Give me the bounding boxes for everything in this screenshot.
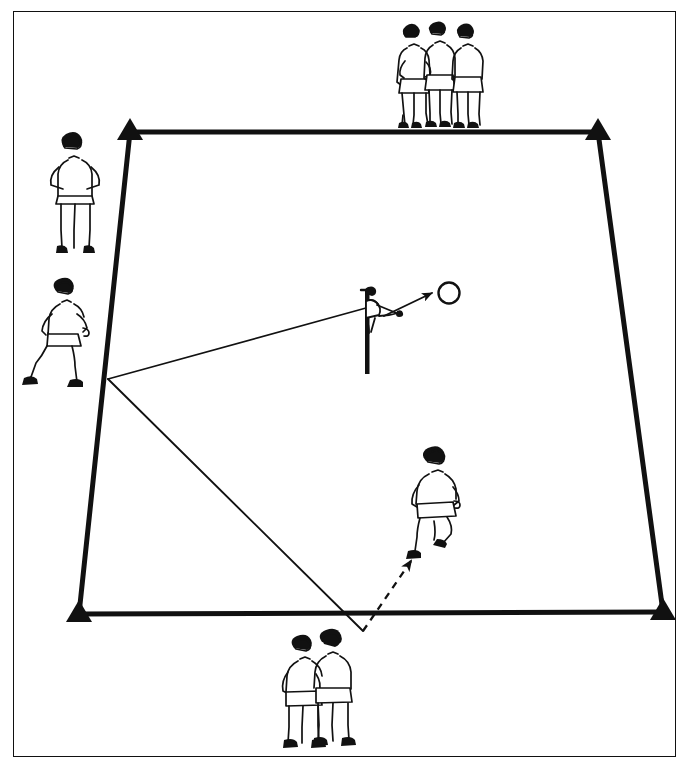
player-runner-center xyxy=(406,446,460,559)
ball-flight-path xyxy=(384,293,432,316)
drill-diagram xyxy=(0,0,691,768)
run-path-to-bottom xyxy=(108,379,363,631)
diagram-page xyxy=(0,0,691,768)
cone-bottom-right xyxy=(650,598,676,620)
ball xyxy=(439,283,460,304)
cone-bottom-left xyxy=(66,600,92,622)
field-boundary-lines xyxy=(79,132,663,614)
player-walking-left xyxy=(22,278,89,387)
movement-paths xyxy=(108,283,460,632)
player-group-top xyxy=(397,21,483,128)
cone-markers xyxy=(66,118,676,622)
player-coach-left xyxy=(51,132,100,253)
player-pair-bottom xyxy=(283,629,356,748)
edge-bottom xyxy=(79,612,663,614)
pass-path-to-server xyxy=(108,308,366,379)
edge-right xyxy=(598,132,663,612)
player-server-center xyxy=(361,286,403,374)
cone-top-right xyxy=(585,118,611,140)
dashed-run-path xyxy=(363,561,411,631)
cone-top-left xyxy=(117,118,143,140)
